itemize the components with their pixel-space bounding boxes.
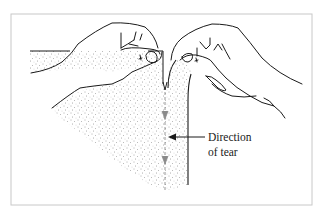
tear-direction-figure: Direction of tear (0, 0, 322, 222)
paper-sheet-icon (30, 51, 192, 190)
label-of-tear: of tear (208, 145, 238, 159)
illustration (0, 0, 322, 222)
label-direction: Direction (208, 130, 251, 144)
